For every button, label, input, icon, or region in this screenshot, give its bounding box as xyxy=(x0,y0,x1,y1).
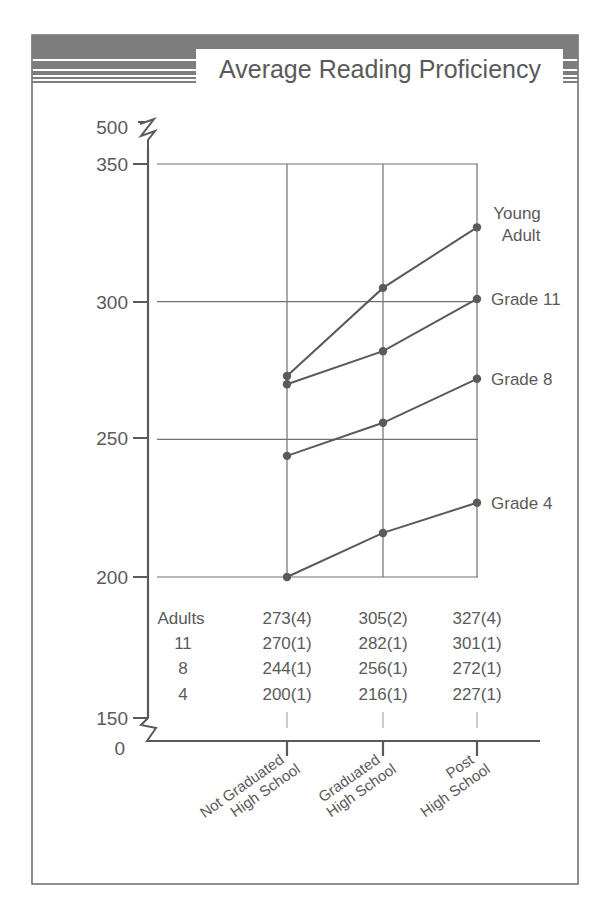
y-tick-label: 250 xyxy=(96,428,128,449)
y-tick-label: 200 xyxy=(96,567,128,588)
table-cell: 305(2) xyxy=(358,609,407,628)
data-point xyxy=(283,573,291,581)
data-point xyxy=(473,223,481,231)
table-row-label: 11 xyxy=(174,634,192,653)
table-cell: 227(1) xyxy=(452,685,501,704)
table-cell: 256(1) xyxy=(358,659,407,678)
series-label: Grade 8 xyxy=(491,370,552,389)
table-row-label: 8 xyxy=(178,659,187,678)
series-labels: YoungAdultGrade 11Grade 8Grade 4 xyxy=(491,204,561,513)
table-cell: 282(1) xyxy=(358,634,407,653)
table-cell: 244(1) xyxy=(262,659,311,678)
data-point xyxy=(379,284,387,292)
table-cell: 270(1) xyxy=(262,634,311,653)
table-cell: 273(4) xyxy=(262,609,311,628)
data-point xyxy=(283,452,291,460)
x-axis-labels: Not GraduatedHigh SchoolGraduatedHigh Sc… xyxy=(196,746,493,835)
series-label: Grade 4 xyxy=(491,494,552,513)
y-tick-label: 300 xyxy=(96,292,128,313)
x-category-label: PostHigh School xyxy=(407,746,493,820)
y-tick-label: 0 xyxy=(114,738,125,759)
table-cell: 200(1) xyxy=(262,685,311,704)
data-point xyxy=(379,529,387,537)
table-row-label: Adults xyxy=(157,609,204,628)
table-row-label: 4 xyxy=(178,685,187,704)
data-table: Adults273(4)305(2)327(4)11270(1)282(1)30… xyxy=(157,609,501,704)
data-point xyxy=(283,372,291,380)
x-category-label: GraduatedHigh School xyxy=(313,746,399,820)
y-tick-label: 350 xyxy=(96,154,128,175)
table-cell: 327(4) xyxy=(452,609,501,628)
series-line xyxy=(287,379,477,456)
data-point xyxy=(379,419,387,427)
series-label: Young xyxy=(493,204,541,223)
x-category-label: Not GraduatedHigh School xyxy=(196,746,303,835)
series-label: Grade 11 xyxy=(491,290,561,309)
data-point xyxy=(473,498,481,506)
data-point xyxy=(473,375,481,383)
y-tick-label: 500 xyxy=(96,117,128,138)
series-lines xyxy=(283,223,481,581)
series-line xyxy=(287,503,477,577)
axis-break-top xyxy=(140,119,155,148)
table-cell: 272(1) xyxy=(452,659,501,678)
data-point xyxy=(379,347,387,355)
chart-title: Average Reading Proficiency xyxy=(219,55,541,83)
y-tick-label: 150 xyxy=(96,708,128,729)
series-line xyxy=(287,299,477,384)
data-point xyxy=(283,380,291,388)
series-label: Adult xyxy=(502,226,541,245)
axis-break-bottom xyxy=(141,714,540,741)
data-point xyxy=(473,295,481,303)
reading-proficiency-chart: Average Reading Proficiency 500350300250… xyxy=(0,0,607,924)
table-cell: 216(1) xyxy=(358,685,407,704)
table-cell: 301(1) xyxy=(452,634,501,653)
